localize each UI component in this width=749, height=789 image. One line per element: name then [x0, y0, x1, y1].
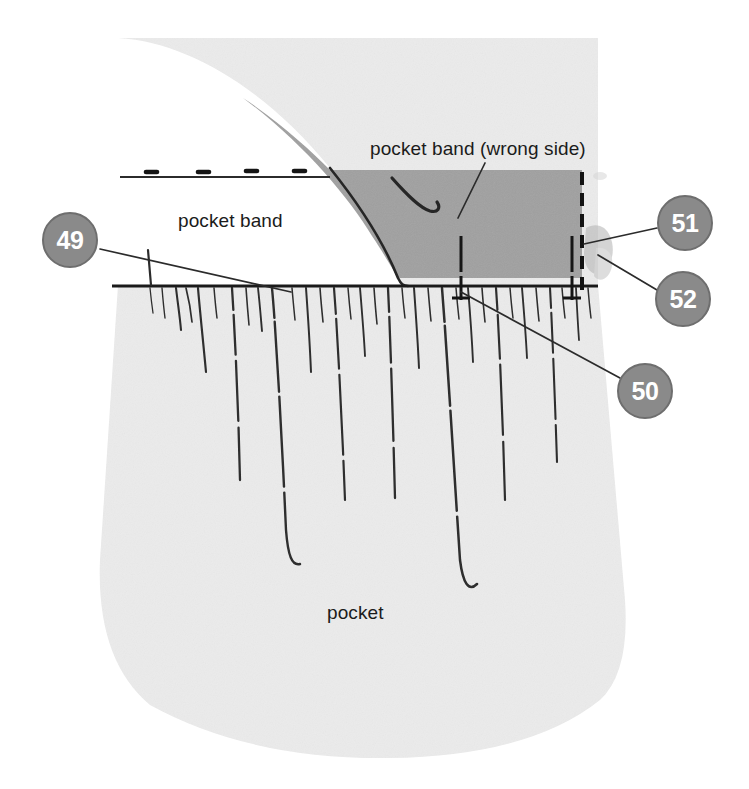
label-pocket-band: pocket band	[178, 211, 283, 230]
callout-50[interactable]: 50	[617, 363, 673, 419]
label-pocket: pocket	[327, 603, 384, 622]
leader-49-tick	[148, 250, 151, 285]
callout-51[interactable]: 51	[657, 195, 713, 251]
pocket-body	[100, 285, 626, 758]
basting-dashes	[146, 171, 305, 172]
figure-canvas: pocket band (wrong side) pocket band poc…	[0, 0, 749, 789]
basting-stitch-line	[120, 171, 330, 177]
callout-49[interactable]: 49	[42, 212, 98, 268]
callout-52[interactable]: 52	[655, 271, 711, 327]
pocket-fabric-shape	[100, 285, 626, 758]
label-pocket-band-wrong-side: pocket band (wrong side)	[370, 139, 586, 158]
